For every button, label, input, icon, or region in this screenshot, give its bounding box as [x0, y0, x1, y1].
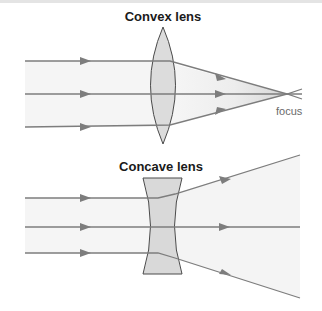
convex-lens-section: Convex lens focus: [25, 9, 303, 144]
focus-label: focus: [276, 105, 303, 117]
concave-lens-section: Concave lens: [25, 155, 300, 298]
concave-incoming-beam: [25, 198, 165, 253]
concave-lens-title: Concave lens: [119, 159, 203, 174]
convex-lens-title: Convex lens: [125, 9, 202, 24]
lens-diagram: Convex lens focus Concave lens: [0, 0, 322, 311]
